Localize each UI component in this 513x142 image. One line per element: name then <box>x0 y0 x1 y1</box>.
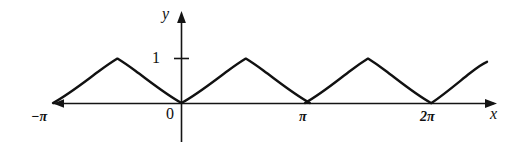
curve-segment-partial-fourth-arch <box>432 62 488 103</box>
y-axis <box>177 11 186 142</box>
y-axis-up-arrow-icon <box>177 11 186 23</box>
x-axis-label: x <box>490 106 497 122</box>
curve-segment-third-arch <box>305 59 431 103</box>
y-axis-label: y <box>162 6 169 22</box>
origin-label-0: 0 <box>166 106 174 122</box>
math-plot-figure: y 1 0 −π π 2π x <box>0 0 513 142</box>
y-tick-label-1: 1 <box>152 50 160 66</box>
x-tick-label-pi: π <box>299 110 307 124</box>
curve-abs-sin <box>53 59 487 103</box>
x-tick-label-neg-pi: −π <box>31 110 47 124</box>
plot-canvas <box>0 0 513 142</box>
x-tick-label-two-pi: 2π <box>420 110 435 124</box>
